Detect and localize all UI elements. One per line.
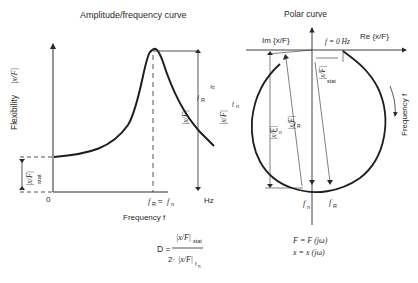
svg-text:stat: stat bbox=[193, 238, 202, 244]
svg-text:|x/F|: |x/F| bbox=[181, 110, 190, 125]
amplitude-curve bbox=[54, 49, 214, 157]
damping-formula: D = |x/F| stat 2· |x/F| f n bbox=[157, 233, 203, 269]
frequency-direction-label: Frequency f bbox=[400, 93, 409, 136]
svg-text:n: n bbox=[236, 103, 239, 109]
origin-label: 0 bbox=[46, 195, 51, 204]
svg-text:|x/F|: |x/F| bbox=[219, 110, 228, 125]
fn-point-label: n bbox=[307, 204, 310, 210]
svg-text:f: f bbox=[232, 100, 235, 108]
svg-text:n: n bbox=[171, 201, 174, 207]
svg-text:n: n bbox=[279, 129, 282, 135]
svg-text:R: R bbox=[201, 97, 205, 103]
svg-text:|x/F|: |x/F| bbox=[176, 233, 191, 242]
polar-chart-title: Polar curve bbox=[284, 9, 327, 19]
static-annotation: |x/F| stat bbox=[25, 171, 42, 186]
frequency-direction-arrow bbox=[390, 86, 395, 116]
diagram-canvas: Amplitude/frequency curve |x/F| stat Fle… bbox=[0, 0, 418, 283]
svg-text:2·: 2· bbox=[168, 255, 175, 264]
svg-text:stat: stat bbox=[36, 174, 42, 184]
y-axis-label: Flexibility bbox=[9, 94, 19, 130]
imag-axis-label: Im {x/F} bbox=[262, 36, 290, 45]
y-axis-symbol: |x/F| bbox=[9, 68, 19, 84]
formula-lhs: D = bbox=[157, 244, 171, 254]
svg-text:|x/F|: |x/F| bbox=[178, 255, 193, 264]
amplitude-frequency-chart: Amplitude/frequency curve |x/F| stat Fle… bbox=[9, 10, 239, 222]
svg-text:R: R bbox=[297, 123, 301, 129]
svg-text:≈: ≈ bbox=[158, 197, 163, 206]
left-chart-title: Amplitude/frequency curve bbox=[80, 10, 187, 20]
x-axis-label: Frequency f bbox=[123, 213, 166, 222]
svg-text:≈: ≈ bbox=[210, 82, 215, 92]
svg-text:f: f bbox=[195, 261, 197, 267]
real-axis-label: Re {x/F} bbox=[360, 32, 389, 41]
fR-point-label: R bbox=[333, 203, 337, 209]
svg-text:f: f bbox=[197, 94, 200, 102]
svg-text:stat: stat bbox=[327, 78, 336, 84]
peak-annotation: |x/F| bbox=[181, 110, 190, 125]
svg-text:|x/F|: |x/F| bbox=[318, 66, 327, 80]
definition-F: F = F (jω) bbox=[292, 236, 328, 245]
svg-text:n: n bbox=[198, 264, 201, 269]
polar-chart: Polar curve Im {x/F} Re {x/F} f = 0 Hz F… bbox=[246, 9, 409, 257]
unit-label: Hz bbox=[204, 196, 214, 205]
definition-x: x = x (jω) bbox=[292, 248, 325, 257]
svg-text:|x/F|: |x/F| bbox=[25, 171, 34, 186]
zero-freq-label: f = 0 Hz bbox=[325, 37, 350, 46]
svg-text:R: R bbox=[152, 201, 156, 207]
